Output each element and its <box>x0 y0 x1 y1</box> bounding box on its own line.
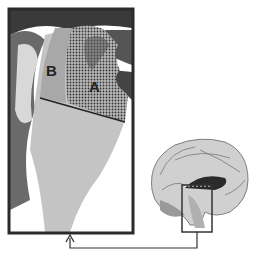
zoom-panel <box>10 10 132 232</box>
inset-brain <box>151 139 248 232</box>
region-a-label: A <box>89 78 100 95</box>
region-b-label: B <box>46 62 57 79</box>
brain-figure <box>0 0 260 260</box>
